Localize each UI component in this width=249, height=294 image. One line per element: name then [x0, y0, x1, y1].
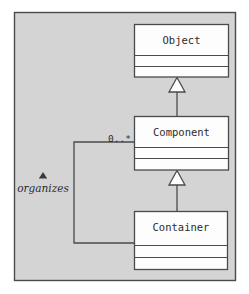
multiplicity-label: 0..*: [108, 133, 131, 144]
class-box-object-outline: [135, 25, 229, 78]
class-name-object: Object: [163, 34, 201, 46]
class-name-container: Container: [153, 221, 210, 233]
class-box-component-outline: [135, 117, 229, 171]
diagram-svg: Object Component Container 0..* organize…: [0, 0, 249, 294]
class-box-object[interactable]: Object: [135, 25, 229, 78]
uml-class-diagram-canvas: Object Component Container 0..* organize…: [0, 0, 249, 294]
association-name-label: organizes: [17, 182, 69, 194]
class-box-container[interactable]: Container: [135, 212, 228, 270]
class-name-component: Component: [153, 126, 210, 138]
class-box-component[interactable]: Component: [135, 117, 229, 171]
